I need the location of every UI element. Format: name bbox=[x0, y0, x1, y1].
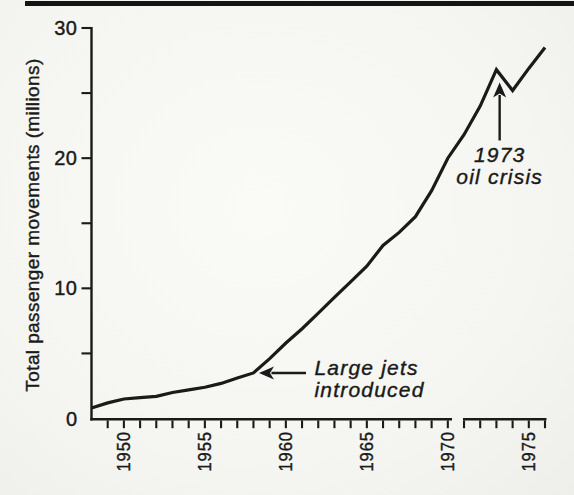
x-tick-label: 1970 bbox=[438, 431, 459, 471]
x-tick-label: 1975 bbox=[519, 431, 540, 471]
x-tick-label: 1955 bbox=[195, 431, 216, 471]
x-tick-label: 1965 bbox=[357, 431, 378, 471]
annotation-text-large-jets-introduced: Large jets bbox=[314, 356, 418, 379]
y-axis-title: Total passenger movements (millions) bbox=[22, 58, 43, 391]
y-tick-label: 30 bbox=[54, 17, 77, 39]
x-tick-label: 1960 bbox=[276, 431, 297, 471]
annotation-text-oil-crisis-1973: 1973 bbox=[474, 143, 526, 166]
annotation-text-oil-crisis-1973: oil crisis bbox=[456, 165, 543, 188]
x-tick-label: 1950 bbox=[114, 431, 135, 471]
chart-figure: 0102030195019551960196519701975Total pas… bbox=[0, 0, 574, 495]
y-tick-label: 10 bbox=[54, 277, 77, 299]
y-tick-label: 0 bbox=[66, 408, 78, 430]
passenger-movements-chart: 0102030195019551960196519701975Total pas… bbox=[0, 0, 574, 495]
annotation-text-large-jets-introduced: introduced bbox=[314, 378, 424, 401]
data-line-total-passenger-movements bbox=[92, 48, 546, 409]
y-tick-label: 20 bbox=[54, 147, 77, 169]
